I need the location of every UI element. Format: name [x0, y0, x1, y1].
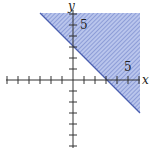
- x-axis-label: x: [142, 73, 149, 87]
- y-tick-label-5: 5: [80, 18, 88, 32]
- inequality-graph: y x 5 5: [0, 0, 149, 151]
- x-tick-label-5: 5: [124, 60, 132, 74]
- y-axis-label: y: [67, 0, 75, 13]
